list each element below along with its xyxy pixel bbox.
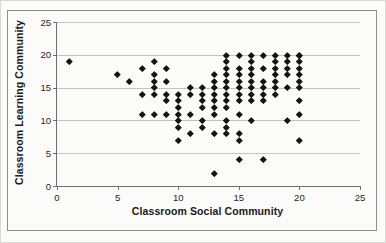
- data-point: [139, 91, 145, 97]
- data-point: [175, 104, 181, 110]
- data-point: [284, 58, 290, 64]
- data-point: [187, 84, 193, 90]
- data-point: [260, 65, 266, 71]
- data-point: [223, 117, 229, 123]
- data-point: [211, 130, 217, 136]
- y-tick-mark-15: [53, 88, 57, 89]
- data-point: [272, 71, 278, 77]
- data-point: [175, 137, 181, 143]
- x-tick-label-5: 5: [105, 192, 131, 203]
- y-tick-label-0: 0: [31, 181, 51, 192]
- x-tick-mark-10: [178, 186, 179, 190]
- data-point: [199, 124, 205, 130]
- data-point: [223, 124, 229, 130]
- y-tick-label-20: 20: [31, 49, 51, 60]
- data-point: [163, 65, 169, 71]
- data-point: [114, 71, 120, 77]
- data-point: [223, 104, 229, 110]
- data-point: [260, 157, 266, 163]
- data-point: [139, 111, 145, 117]
- data-point: [199, 104, 205, 110]
- x-tick-mark-0: [57, 186, 58, 190]
- data-point: [236, 97, 242, 103]
- data-point: [223, 84, 229, 90]
- data-point: [211, 84, 217, 90]
- y-tick-mark-10: [53, 120, 57, 121]
- data-point: [163, 111, 169, 117]
- y-tick-label-5: 5: [31, 148, 51, 159]
- data-point: [151, 71, 157, 77]
- data-point: [284, 71, 290, 77]
- data-point: [236, 137, 242, 143]
- data-point: [223, 91, 229, 97]
- gridline-y-20: [57, 55, 360, 56]
- data-point: [175, 117, 181, 123]
- data-point: [296, 52, 302, 58]
- y-tick-label-15: 15: [31, 82, 51, 93]
- data-point: [187, 130, 193, 136]
- data-point: [248, 97, 254, 103]
- data-point: [199, 84, 205, 90]
- data-point: [211, 170, 217, 176]
- data-point: [296, 97, 302, 103]
- data-point: [223, 58, 229, 64]
- x-tick-label-10: 10: [165, 192, 191, 203]
- data-point: [187, 91, 193, 97]
- data-point: [139, 65, 145, 71]
- data-point: [211, 104, 217, 110]
- data-point: [223, 130, 229, 136]
- gridline-y-25: [57, 22, 360, 23]
- data-point: [236, 71, 242, 77]
- data-point: [223, 78, 229, 84]
- scatter-plot-figure: 05101520250510152025 Classroom Social Co…: [0, 0, 386, 243]
- data-point: [223, 97, 229, 103]
- x-tick-label-0: 0: [44, 192, 70, 203]
- data-point: [151, 111, 157, 117]
- data-point: [151, 91, 157, 97]
- x-tick-mark-20: [299, 186, 300, 190]
- x-tick-label-20: 20: [286, 192, 312, 203]
- data-point: [272, 58, 278, 64]
- data-point: [248, 58, 254, 64]
- y-tick-label-25: 25: [31, 17, 51, 28]
- data-point: [296, 58, 302, 64]
- y-tick-label-10: 10: [31, 115, 51, 126]
- y-axis-title: Classroom Learning Community: [13, 21, 27, 185]
- x-tick-label-25: 25: [347, 192, 373, 203]
- x-tick-mark-25: [360, 186, 361, 190]
- data-point: [126, 78, 132, 84]
- data-point: [296, 84, 302, 90]
- data-point: [272, 91, 278, 97]
- data-point: [296, 137, 302, 143]
- data-point: [175, 124, 181, 130]
- data-point: [272, 84, 278, 90]
- data-point: [223, 65, 229, 71]
- data-point: [211, 111, 217, 117]
- x-tick-mark-15: [239, 186, 240, 190]
- data-point: [248, 117, 254, 123]
- data-point: [211, 78, 217, 84]
- data-point: [163, 97, 169, 103]
- gridline-y-5: [57, 153, 360, 154]
- data-point: [284, 117, 290, 123]
- data-point: [211, 71, 217, 77]
- data-point: [296, 111, 302, 117]
- data-point: [66, 58, 72, 64]
- plot-area: 05101520250510152025: [56, 22, 360, 187]
- data-point: [236, 157, 242, 163]
- y-tick-mark-25: [53, 22, 57, 23]
- data-point: [223, 71, 229, 77]
- x-axis-title: Classroom Social Community: [56, 205, 359, 217]
- data-point: [296, 71, 302, 77]
- y-tick-mark-5: [53, 153, 57, 154]
- x-tick-label-15: 15: [226, 192, 252, 203]
- data-point: [211, 97, 217, 103]
- y-tick-mark-20: [53, 55, 57, 56]
- gridline-y-10: [57, 120, 360, 121]
- data-point: [187, 111, 193, 117]
- data-point: [223, 52, 229, 58]
- data-point: [284, 84, 290, 90]
- gridline-y-15: [57, 88, 360, 89]
- data-point: [151, 58, 157, 64]
- data-point: [163, 78, 169, 84]
